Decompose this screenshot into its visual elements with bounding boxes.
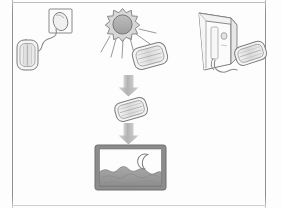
down-arrow-icon-2 — [119, 123, 139, 145]
computer-tower-icon — [199, 13, 237, 70]
source-solar-group — [101, 9, 169, 72]
rechargeable-device-icon-1 — [17, 40, 38, 70]
down-arrow-icon-1 — [119, 75, 139, 97]
night-scene-display — [95, 145, 166, 190]
diagram-page: Device charging sources and night displa… — [0, 0, 281, 208]
source-wall-outlet-group — [17, 9, 72, 70]
charged-device-icon — [113, 96, 149, 123]
diagram-stage — [0, 0, 281, 208]
sun-icon — [105, 9, 139, 42]
rechargeable-device-icon-3 — [233, 39, 268, 67]
solar-panel-device-icon — [131, 41, 170, 71]
diagram-artwork — [0, 0, 281, 208]
power-outlet-icon — [49, 9, 72, 33]
source-computer-group — [199, 13, 268, 72]
